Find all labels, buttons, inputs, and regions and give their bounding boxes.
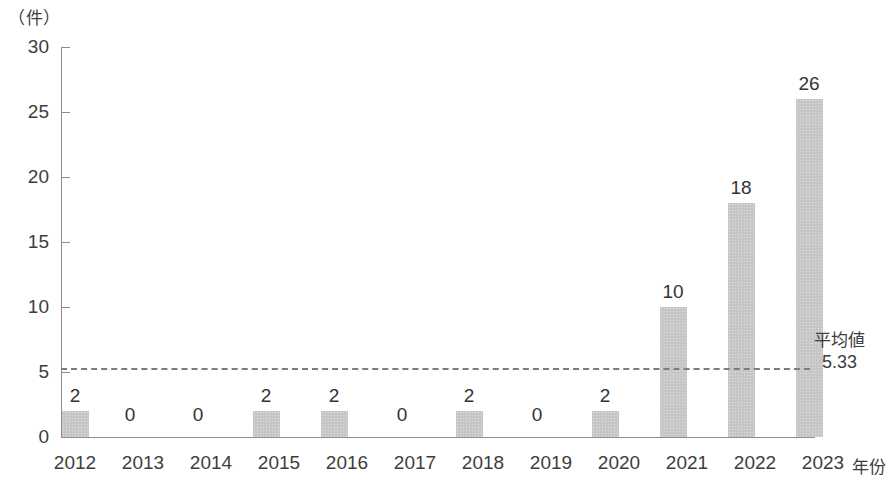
x-tick-label-2021: 2021 [666, 452, 708, 474]
bar-2016[interactable] [321, 411, 348, 437]
y-tick-label-20: 20 [28, 166, 49, 188]
average-line [61, 368, 810, 370]
bar-value-2017: 0 [375, 404, 429, 426]
x-tick-label-2012: 2012 [54, 452, 96, 474]
bar-value-2021: 10 [646, 281, 700, 303]
bar-2018[interactable] [456, 411, 483, 437]
average-line-annotation: 平均値 5.33 [814, 330, 865, 374]
x-tick-label-2016: 2016 [326, 452, 368, 474]
bar-value-2014: 0 [171, 404, 225, 426]
average-line-value: 5.33 [814, 351, 865, 374]
bar-2022[interactable] [728, 203, 755, 437]
bar-value-2022: 18 [714, 177, 768, 199]
y-tick-label-30: 30 [28, 36, 49, 58]
bar-2023[interactable] [796, 99, 823, 437]
y-tick-label-10: 10 [28, 296, 49, 318]
bar-2015[interactable] [253, 411, 280, 437]
y-tick-mark-0 [61, 437, 70, 438]
bar-value-2016: 2 [307, 385, 361, 407]
x-tick-label-2020: 2020 [598, 452, 640, 474]
y-tick-label-5: 5 [38, 361, 49, 383]
bar-value-2013: 0 [103, 404, 157, 426]
y-tick-label-0: 0 [38, 426, 49, 448]
x-tick-label-2018: 2018 [462, 452, 504, 474]
y-tick-label-25: 25 [28, 101, 49, 123]
bar-2020[interactable] [592, 411, 619, 437]
x-tick-label-2013: 2013 [122, 452, 164, 474]
bar-2021[interactable] [660, 307, 687, 437]
bar-value-2023: 26 [782, 73, 836, 95]
y-axis-unit-label: （件） [8, 4, 61, 29]
y-tick-label-15: 15 [28, 231, 49, 253]
bar-value-2015: 2 [239, 385, 293, 407]
x-tick-label-2014: 2014 [190, 452, 232, 474]
bar-value-2018: 2 [442, 385, 496, 407]
x-tick-label-2015: 2015 [258, 452, 300, 474]
x-axis-title: 年份 [852, 453, 886, 478]
bar-value-2020: 2 [578, 385, 632, 407]
x-tick-label-2022: 2022 [734, 452, 776, 474]
plot-area [61, 47, 815, 437]
average-line-label: 平均値 [814, 330, 865, 351]
bar-2012[interactable] [62, 411, 89, 437]
bar-value-2019: 0 [510, 404, 564, 426]
bar-value-2012: 2 [48, 385, 102, 407]
x-tick-label-2019: 2019 [530, 452, 572, 474]
x-tick-label-2023: 2023 [802, 452, 844, 474]
x-tick-label-2017: 2017 [394, 452, 436, 474]
x-axis-line [61, 437, 815, 438]
